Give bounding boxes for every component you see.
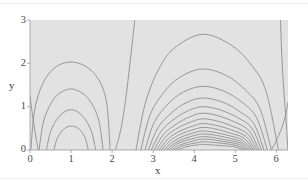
x-tick-2: 2 (102, 154, 122, 165)
x-tick-4: 4 (184, 154, 204, 165)
y-tick-2: 2 (12, 58, 26, 69)
y-axis-label: y (9, 80, 15, 91)
x-tick-1: 1 (61, 154, 81, 165)
y-tick-3: 3 (12, 15, 26, 26)
x-tick-6: 6 (266, 154, 286, 165)
x-tick-3: 3 (143, 154, 163, 165)
x-tick-0: 0 (20, 154, 40, 165)
x-tick-5: 5 (225, 154, 245, 165)
y-tick-0: 0 (12, 144, 26, 155)
x-axis-label: x (155, 165, 161, 176)
y-tick-1: 1 (12, 101, 26, 112)
contour-figure: 3 2 1 0 y 0 1 2 3 4 5 6 x (0, 0, 308, 182)
